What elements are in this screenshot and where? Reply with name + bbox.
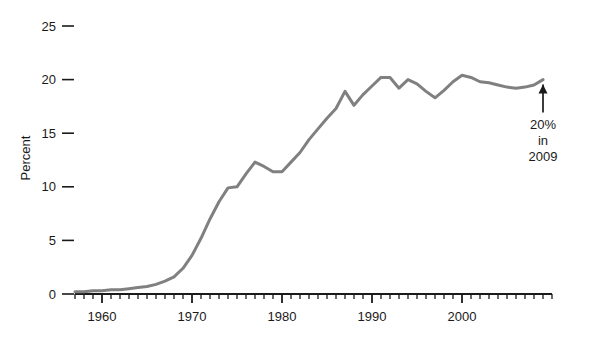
x-tick-label: 2000	[448, 309, 477, 324]
arrow-head-icon	[539, 85, 548, 94]
annotation-line: in	[538, 133, 548, 148]
x-axis: 19601970198019902000	[75, 294, 552, 324]
y-tick-label: 0	[49, 287, 56, 302]
y-tick-label: 5	[49, 233, 56, 248]
y-tick-label: 25	[42, 19, 56, 34]
x-tick-label: 1970	[178, 309, 207, 324]
y-axis-title: Percent	[18, 135, 33, 180]
y-axis-ticks: 0510152025	[42, 19, 74, 302]
y-tick-label: 10	[42, 179, 56, 194]
annotation-callout: 20%in2009	[529, 85, 558, 164]
y-tick-label: 15	[42, 126, 56, 141]
x-tick-label: 1960	[88, 309, 117, 324]
annotation-line: 2009	[529, 149, 558, 164]
annotation-line: 20%	[530, 117, 556, 132]
x-tick-label: 1980	[268, 309, 297, 324]
x-tick-label: 1990	[358, 309, 387, 324]
chart-figure: 0510152025 19601970198019902000 20%in200…	[0, 0, 594, 342]
data-series-line	[75, 75, 543, 292]
line-chart: 0510152025 19601970198019902000 20%in200…	[0, 0, 594, 342]
y-tick-label: 20	[42, 72, 56, 87]
